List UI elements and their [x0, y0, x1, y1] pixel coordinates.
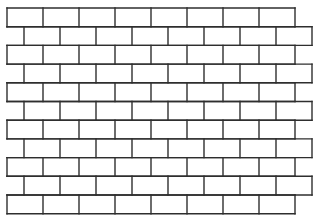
brick-wall-diagram [0, 0, 317, 220]
brick-pattern [0, 0, 317, 220]
